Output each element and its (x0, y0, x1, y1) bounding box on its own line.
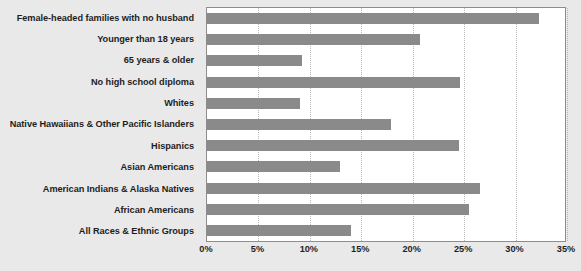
bar (207, 119, 391, 130)
category-label: Asian Americans (0, 157, 200, 178)
bar-row (207, 220, 565, 241)
category-label: Native Hawaiians & Other Pacific Islande… (0, 114, 200, 135)
bar-row (207, 29, 565, 50)
bar (207, 161, 340, 172)
bar (207, 140, 459, 151)
bar (207, 77, 460, 88)
value-axis: 0%5%10%15%20%25%30%35% (206, 244, 566, 262)
category-label: No high school diploma (0, 71, 200, 92)
gridline (567, 8, 569, 241)
bar-row (207, 50, 565, 71)
x-tick-label: 0% (199, 244, 212, 254)
category-label: American Indians & Alaska Natives (0, 178, 200, 199)
bar (207, 98, 300, 109)
bar (207, 34, 420, 45)
bar-row (207, 156, 565, 177)
x-tick-label: 30% (505, 244, 523, 254)
x-tick-label: 35% (557, 244, 575, 254)
x-tick-label: 5% (251, 244, 264, 254)
category-label: 65 years & older (0, 50, 200, 71)
x-tick-label: 10% (300, 244, 318, 254)
bar (207, 183, 480, 194)
bar (207, 55, 302, 66)
bar-row (207, 93, 565, 114)
bar-row (207, 114, 565, 135)
x-tick-label: 25% (454, 244, 472, 254)
bar-row (207, 72, 565, 93)
bar (207, 13, 539, 24)
bar-row (207, 8, 565, 29)
category-label: Whites (0, 92, 200, 113)
x-tick-label: 15% (351, 244, 369, 254)
category-label: All Races & Ethnic Groups (0, 221, 200, 242)
category-label: Female-headed families with no husband (0, 7, 200, 28)
category-label: Hispanics (0, 135, 200, 156)
category-label: African Americans (0, 199, 200, 220)
bar-chart: Female-headed families with no husbandYo… (0, 0, 581, 271)
category-axis-labels: Female-headed families with no husbandYo… (0, 7, 200, 242)
plot-area (206, 7, 566, 242)
bar-row (207, 178, 565, 199)
category-label: Younger than 18 years (0, 28, 200, 49)
bar-row (207, 199, 565, 220)
bar (207, 204, 469, 215)
bar (207, 225, 351, 236)
bar-series (207, 8, 565, 241)
x-tick-label: 20% (403, 244, 421, 254)
bar-row (207, 135, 565, 156)
